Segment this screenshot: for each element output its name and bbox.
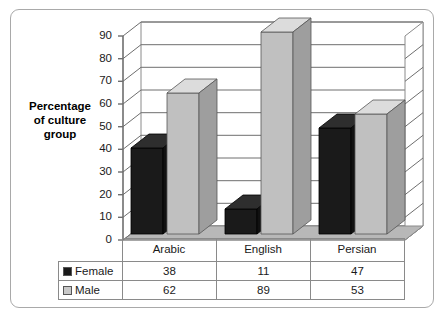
category-label-english: English <box>216 243 310 255</box>
y-tick-label-80: 80 <box>90 52 112 64</box>
legend-label-male: Male <box>75 284 100 296</box>
cell-male-persian: 53 <box>311 281 405 300</box>
chart-figure: Percentage of culture group 90 80 70 60 … <box>0 0 445 326</box>
category-label-arabic: Arabic <box>122 243 216 255</box>
y-tick-label-90: 90 <box>90 29 112 41</box>
bar-persian-male[interactable] <box>355 100 405 234</box>
legend-item-female[interactable]: Female <box>59 262 123 281</box>
legend-swatch-male-icon <box>63 286 72 295</box>
category-row-top-border <box>122 238 405 239</box>
category-label-persian: Persian <box>310 243 404 255</box>
y-tick-label-50: 50 <box>90 120 112 132</box>
cell-male-arabic: 62 <box>123 281 217 300</box>
chart-right-wall <box>405 22 423 240</box>
y-tick-label-0: 0 <box>90 233 112 245</box>
y-tick-label-60: 60 <box>90 97 112 109</box>
legend-label-female: Female <box>75 265 113 277</box>
cell-male-english: 89 <box>217 281 311 300</box>
cell-female-english: 11 <box>217 262 311 281</box>
legend-swatch-female-icon <box>63 267 72 276</box>
y-tick-label-40: 40 <box>90 142 112 154</box>
bar-arabic-male[interactable] <box>167 79 217 234</box>
table-row[interactable]: Female 38 11 47 <box>59 262 405 281</box>
y-tick-label-10: 10 <box>90 210 112 222</box>
category-divider-right <box>404 238 405 261</box>
cell-female-arabic: 38 <box>123 262 217 281</box>
y-tick-label-70: 70 <box>90 74 112 86</box>
y-tick-label-20: 20 <box>90 188 112 200</box>
bar-english-male[interactable] <box>261 18 311 234</box>
y-tick-label-30: 30 <box>90 165 112 177</box>
chart-data-table: Female 38 11 47 Male 62 89 53 <box>58 261 405 300</box>
legend-item-male[interactable]: Male <box>59 281 123 300</box>
cell-female-persian: 47 <box>311 262 405 281</box>
table-row[interactable]: Male 62 89 53 <box>59 281 405 300</box>
